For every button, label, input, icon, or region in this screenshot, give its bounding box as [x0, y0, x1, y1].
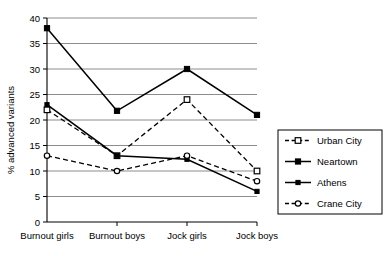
- data-point-open-circle: [254, 179, 259, 184]
- data-point-filled-square: [184, 66, 189, 71]
- data-point-filled-square-small: [45, 103, 49, 107]
- y-tick-label: 25: [29, 89, 40, 100]
- y-tick-label: 0: [35, 217, 40, 228]
- data-point-open-square: [295, 138, 301, 144]
- y-tick-label: 35: [29, 38, 40, 49]
- data-point-filled-square: [114, 108, 119, 113]
- y-tick-label: 30: [29, 64, 40, 75]
- data-point-filled-square: [44, 26, 49, 31]
- legend-label: Athens: [317, 177, 347, 188]
- chart-container: 0510152025303540 Burnout girlsBurnout bo…: [0, 0, 384, 256]
- legend-label: Urban City: [317, 135, 362, 146]
- data-point-filled-square-small: [115, 154, 119, 158]
- x-category-label: Jock boys: [236, 230, 278, 241]
- y-tick-label: 20: [29, 115, 40, 126]
- x-category-label: Jock girls: [167, 230, 207, 241]
- y-axis-title: % advanced variants: [5, 86, 16, 174]
- data-point-open-circle: [44, 153, 49, 158]
- data-point-open-circle: [295, 201, 300, 206]
- data-point-open-circle: [184, 153, 189, 158]
- data-point-filled-square-small: [255, 189, 259, 193]
- data-point-open-circle: [114, 168, 119, 173]
- y-tick-label: 40: [29, 13, 40, 24]
- y-tick-label: 15: [29, 140, 40, 151]
- data-point-filled-square: [295, 159, 300, 164]
- legend-label: Crane City: [317, 198, 362, 209]
- x-category-label: Burnout girls: [20, 230, 74, 241]
- data-point-filled-square-small: [296, 180, 300, 184]
- chart-background: [0, 0, 384, 256]
- data-point-open-square: [44, 107, 50, 113]
- data-point-open-square: [184, 97, 190, 103]
- legend-label: Neartown: [317, 156, 358, 167]
- x-category-label: Burnout boys: [89, 230, 145, 241]
- data-point-filled-square: [254, 112, 259, 117]
- line-chart: 0510152025303540 Burnout girlsBurnout bo…: [0, 0, 384, 256]
- y-tick-label: 10: [29, 166, 40, 177]
- data-point-open-square: [254, 168, 260, 174]
- chart-legend: Urban CityNeartownAthensCrane City: [278, 130, 382, 214]
- y-tick-label: 5: [35, 191, 40, 202]
